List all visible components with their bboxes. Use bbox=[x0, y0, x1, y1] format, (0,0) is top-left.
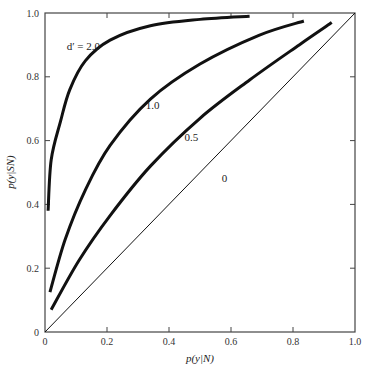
roc-curve bbox=[51, 23, 332, 310]
y-tick-label: 1.0 bbox=[27, 8, 40, 19]
y-tick-label: 0.4 bbox=[27, 199, 40, 210]
roc-curves bbox=[45, 13, 355, 332]
x-tick-label: 0.8 bbox=[287, 336, 300, 347]
curve-label: 1.0 bbox=[146, 99, 160, 111]
roc-curve bbox=[45, 13, 355, 332]
roc-curve bbox=[50, 21, 304, 292]
y-tick-label: 0.6 bbox=[27, 135, 40, 146]
x-axis-label: p(y|N) bbox=[185, 352, 214, 365]
x-tick-label: 1.0 bbox=[349, 336, 362, 347]
x-tick-label: 0.2 bbox=[101, 336, 114, 347]
y-tick-label: 0.8 bbox=[27, 71, 40, 82]
curve-label: 0.5 bbox=[185, 131, 199, 143]
roc-chart: 00.20.40.60.81.000.20.40.60.81.0 d′ = 2.… bbox=[0, 0, 368, 372]
x-tick-label: 0.4 bbox=[163, 336, 176, 347]
x-tick-label: 0 bbox=[43, 336, 48, 347]
curve-label: d′ = 2.0 bbox=[67, 40, 101, 52]
x-tick-label: 0.6 bbox=[225, 336, 238, 347]
curve-label: 0 bbox=[222, 172, 228, 184]
y-tick-label: 0 bbox=[34, 327, 39, 338]
y-tick-label: 0.2 bbox=[27, 263, 40, 274]
y-axis-label: p(y|SN) bbox=[4, 155, 17, 190]
